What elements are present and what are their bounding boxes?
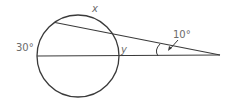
secant-circle-diagram: x 30° y 10° <box>0 0 228 107</box>
arc-label-30: 30° <box>16 42 34 53</box>
horizontal-secant-line <box>37 55 220 56</box>
angle-arc <box>156 44 160 56</box>
angle-label-10: 10° <box>173 29 191 40</box>
upper-secant-line <box>55 23 220 56</box>
arc-label-y: y <box>120 44 128 55</box>
arc-label-x: x <box>91 3 98 14</box>
